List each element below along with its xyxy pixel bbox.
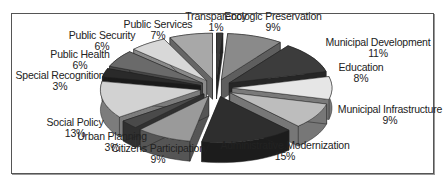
slice-label: Municipal Infrastructure9% <box>338 104 442 126</box>
slice-label-percent: 9% <box>224 22 321 33</box>
slice-label-percent: 11% <box>326 48 431 59</box>
slice-label-percent: 3% <box>15 81 104 92</box>
slice-label-percent: 9% <box>338 115 442 126</box>
slice-label: Public Health6% <box>50 49 109 71</box>
slice-label-percent: 3% <box>77 142 147 153</box>
slice-label-percent: 9% <box>111 154 205 165</box>
slice-label-percent: 13% <box>47 128 104 139</box>
slice-label: Ecologic Preservation9% <box>224 11 321 33</box>
slice-label: Public Services7% <box>124 19 193 41</box>
slice-label: Special Recognition3% <box>15 70 104 92</box>
slice-label: Education8% <box>339 62 384 84</box>
slice-label-percent: 8% <box>339 73 384 84</box>
slice-label-percent: 15% <box>220 151 349 162</box>
slice-label: Municipal Development11% <box>326 37 431 59</box>
slice-label-percent: 6% <box>50 60 109 71</box>
slice-label: Administrative Modernization15% <box>220 140 349 162</box>
slice-label-percent: 6% <box>69 41 135 52</box>
slice-label: Social Policy13% <box>47 117 104 139</box>
slice-label-percent: 7% <box>124 30 193 41</box>
